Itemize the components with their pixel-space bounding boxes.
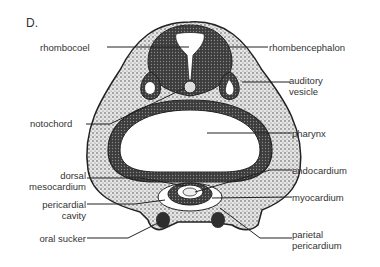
label-pericardial-cavity-line1: pericardial [20, 199, 86, 210]
label-dorsal-mesocardium-line1: dorsal [20, 170, 86, 181]
label-parietal-pericardium: parietal pericardium [292, 229, 342, 251]
label-pharynx: pharynx [292, 128, 326, 139]
label-myocardium: myocardium [292, 192, 344, 203]
label-endocardium: endocardium [292, 165, 347, 176]
label-rhombocoel: rhombocoel [40, 42, 90, 53]
oral-sucker-left [156, 212, 170, 228]
notochord-shape [184, 81, 196, 93]
label-auditory-vesicle-line2: vesicle [289, 86, 323, 97]
label-pericardial-cavity-line2: cavity [20, 210, 86, 221]
label-pericardial-cavity: pericardial cavity [20, 199, 86, 221]
label-notochord: notochord [30, 118, 72, 129]
label-auditory-vesicle-line1: auditory [289, 75, 323, 86]
label-dorsal-mesocardium: dorsal mesocardium [20, 170, 86, 192]
oral-sucker-right [211, 212, 225, 228]
label-dorsal-mesocardium-line2: mesocardium [20, 181, 86, 192]
label-rhombencephalon: rhombencephalon [269, 42, 345, 53]
label-oral-sucker: oral sucker [20, 233, 86, 244]
label-parietal-pericardium-line2: pericardium [292, 240, 342, 251]
label-auditory-vesicle: auditory vesicle [289, 75, 323, 97]
label-parietal-pericardium-line1: parietal [292, 229, 342, 240]
